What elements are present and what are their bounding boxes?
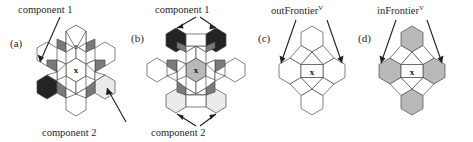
in-frontier-text: inFrontier [377,5,419,16]
square-tile-gray [47,60,57,72]
triangle-tile [215,72,225,81]
hexagon-tile [147,58,167,82]
square-tile [186,95,206,107]
component-2-label-a: component 2 [42,127,97,138]
square-tile-gray [86,39,95,52]
panel-label-b: (b) [131,32,144,45]
component-2-arrow-a [106,88,126,122]
triangle-tile [167,72,177,81]
in-frontier-label: inFrontierV [377,4,424,16]
panel-a: x (a) component 1 component 2 [10,4,126,138]
component-2-arrows-b [177,114,216,126]
out-frontier-label: outFrontierV [271,4,323,16]
panel-c: x (c) outFrontierV [258,4,345,115]
panel-label-c: (c) [258,32,271,45]
hexagon-tile [225,58,245,82]
center-x-mark-c: x [310,67,315,77]
center-x-mark-d: x [410,67,415,77]
center-x-mark-a: x [74,65,79,75]
in-frontier-superscript: V [419,4,424,12]
component-2-label-b: component 2 [151,127,206,138]
square-tile-gray [215,60,225,72]
center-x-mark-b: x [194,65,199,75]
panel-label-d: (d) [358,32,371,45]
square-tile-gray [57,39,66,52]
square-tile-gray [95,60,105,72]
square-tile-gray [167,60,177,72]
panel-d: x (d) inFrontierV [358,4,445,115]
figure-canvas: x (a) component 1 component 2 [0,0,473,142]
component-1-arrows-b [177,17,216,30]
square-tile-gray [86,81,95,98]
square-tile [186,34,206,46]
panel-label-a: (a) [10,37,23,50]
component-1-label-b: component 1 [155,4,210,15]
component-1-label-a: component 1 [18,4,73,15]
out-frontier-superscript: V [318,4,323,12]
square-tile-gray [57,81,66,98]
out-frontier-text: outFrontier [271,5,319,16]
panel-b: x (b) component 1 component 2 [131,4,245,138]
